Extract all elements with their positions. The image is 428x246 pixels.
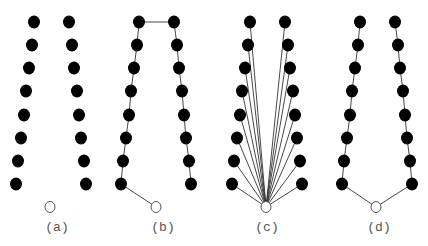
- left-node: [228, 155, 240, 168]
- right-node: [66, 39, 78, 52]
- panel-label-c: (c): [255, 220, 278, 235]
- right-node: [282, 39, 294, 52]
- edge: [121, 184, 156, 207]
- right-node: [183, 155, 195, 168]
- left-node: [26, 39, 38, 52]
- left-node: [125, 85, 137, 98]
- left-node: [242, 39, 254, 52]
- left-node: [20, 85, 32, 98]
- panel-b: [115, 16, 197, 213]
- root-node: [261, 202, 271, 213]
- left-node: [10, 178, 22, 191]
- left-node: [231, 132, 243, 145]
- right-node: [291, 132, 303, 145]
- right-node: [168, 16, 180, 29]
- panel-label-b: (b): [151, 220, 174, 235]
- right-node: [71, 85, 83, 98]
- right-node: [389, 16, 401, 29]
- right-node: [185, 178, 197, 191]
- right-node: [404, 155, 416, 168]
- left-node: [338, 155, 350, 168]
- right-node: [75, 132, 87, 145]
- left-node: [18, 109, 30, 122]
- right-node: [296, 178, 308, 191]
- left-node: [344, 109, 356, 122]
- left-node: [117, 155, 129, 168]
- left-node: [349, 62, 361, 75]
- edge: [376, 184, 412, 207]
- left-node: [341, 132, 353, 145]
- right-node: [176, 85, 188, 98]
- left-node: [236, 85, 248, 98]
- panel-label-a: (a): [45, 220, 68, 235]
- left-node: [354, 16, 366, 29]
- left-node: [131, 39, 143, 52]
- left-node: [133, 16, 145, 29]
- panel-a: [10, 16, 92, 213]
- right-node: [394, 62, 406, 75]
- panel-d: [336, 16, 418, 213]
- right-node: [397, 85, 409, 98]
- root-node: [45, 202, 55, 213]
- right-node: [171, 39, 183, 52]
- left-node: [120, 132, 132, 145]
- right-node: [294, 155, 306, 168]
- right-node: [80, 178, 92, 191]
- left-node: [336, 178, 348, 191]
- right-node: [73, 109, 85, 122]
- left-node: [115, 178, 127, 191]
- edge: [342, 184, 376, 207]
- left-node: [28, 16, 40, 29]
- right-node: [287, 85, 299, 98]
- left-node: [128, 62, 140, 75]
- right-node: [279, 16, 291, 29]
- panel-c: [226, 16, 308, 213]
- right-node: [399, 109, 411, 122]
- left-node: [244, 16, 256, 29]
- right-node: [289, 109, 301, 122]
- right-node: [401, 132, 413, 145]
- diagram-figure: (a) (b) (c) (d): [0, 0, 428, 246]
- left-node: [123, 109, 135, 122]
- right-node: [406, 178, 418, 191]
- root-node: [371, 202, 381, 213]
- right-node: [284, 62, 296, 75]
- left-node: [23, 62, 35, 75]
- right-node: [78, 155, 90, 168]
- left-node: [15, 132, 27, 145]
- right-node: [178, 109, 190, 122]
- root-node: [151, 202, 161, 213]
- left-node: [346, 85, 358, 98]
- left-node: [226, 178, 238, 191]
- right-node: [63, 16, 75, 29]
- right-node: [173, 62, 185, 75]
- left-node: [234, 109, 246, 122]
- left-node: [12, 155, 24, 168]
- left-node: [239, 62, 251, 75]
- right-node: [392, 39, 404, 52]
- panel-label-d: (d): [367, 220, 390, 235]
- right-node: [180, 132, 192, 145]
- left-node: [352, 39, 364, 52]
- right-node: [68, 62, 80, 75]
